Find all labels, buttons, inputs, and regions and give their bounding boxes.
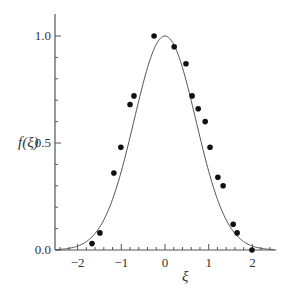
y-axis-label: f(ξ): [18, 134, 39, 151]
fit-curve: [56, 36, 275, 250]
data-points: [89, 33, 255, 253]
data-point: [230, 222, 236, 228]
data-point: [97, 230, 103, 236]
y-tick-label: 0.0: [35, 242, 51, 257]
data-point: [202, 119, 208, 125]
x-tick-label: −2: [71, 255, 85, 270]
y-tick-label: 1.0: [35, 28, 51, 43]
x-tick-label: 0: [162, 255, 169, 270]
data-point: [220, 183, 226, 189]
data-point: [89, 241, 95, 247]
data-point: [127, 102, 133, 108]
data-point: [131, 93, 137, 99]
gaussian-curve: [56, 36, 275, 250]
data-point: [171, 44, 177, 50]
data-point: [195, 106, 201, 112]
x-tick-label: −1: [114, 255, 128, 270]
data-point: [234, 230, 240, 236]
data-point: [118, 144, 124, 150]
data-point: [189, 93, 195, 99]
data-point: [215, 174, 221, 180]
data-point: [111, 170, 117, 176]
x-tick-label: 2: [249, 255, 256, 270]
data-point: [183, 61, 189, 67]
gaussian-chart: 0.00.51.0−2−1012 f(ξ) ξ: [0, 0, 290, 298]
data-point: [249, 247, 255, 253]
x-axis-label: ξ: [182, 268, 189, 284]
data-point: [151, 33, 157, 39]
data-point: [207, 144, 213, 150]
axes: 0.00.51.0−2−1012: [35, 14, 277, 270]
x-tick-label: 1: [205, 255, 212, 270]
